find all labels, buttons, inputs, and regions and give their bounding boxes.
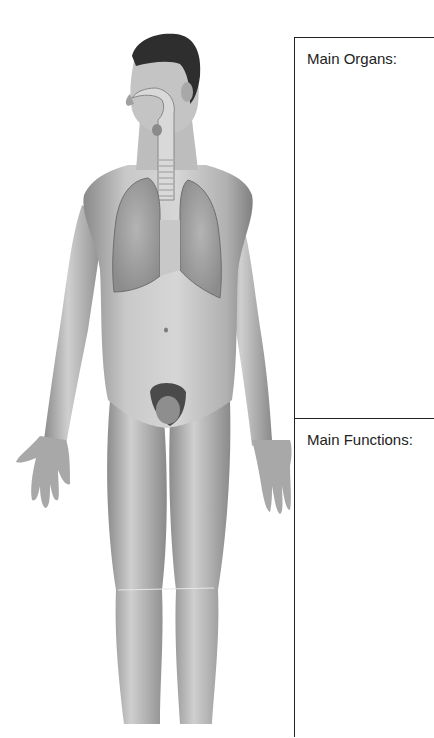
main-organs-answer-area[interactable] <box>301 78 434 418</box>
main-organs-label: Main Organs: <box>307 50 397 67</box>
anatomical-figure <box>0 0 300 724</box>
main-functions-label: Main Functions: <box>307 431 413 448</box>
main-organs-section: Main Organs: <box>295 38 434 418</box>
torso <box>83 165 252 428</box>
main-functions-answer-area[interactable] <box>301 459 434 738</box>
legs <box>107 400 230 724</box>
main-functions-section: Main Functions: <box>295 418 434 738</box>
worksheet-box: Main Organs: Main Functions: <box>294 37 434 737</box>
